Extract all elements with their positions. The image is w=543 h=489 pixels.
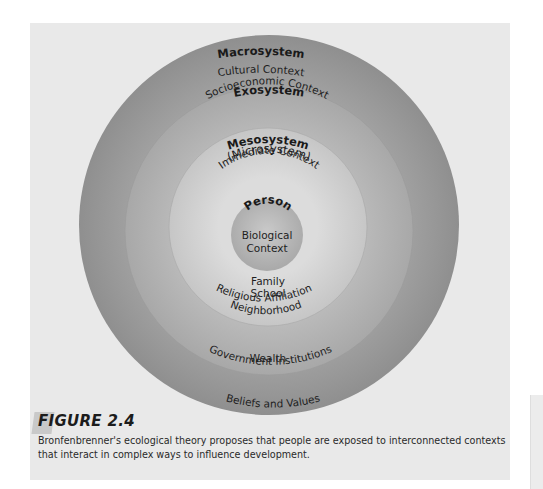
person-context-line1: Biological [242,229,293,241]
person-context-line2: Context [246,242,287,254]
figure-label: FIGURE 2.4 [38,412,135,430]
exosystem-example-wealth: Wealth [250,352,286,364]
figure-caption: Bronfenbrenner's ecological theory propo… [38,434,508,462]
mesosystem-example-family: Family [251,275,285,287]
